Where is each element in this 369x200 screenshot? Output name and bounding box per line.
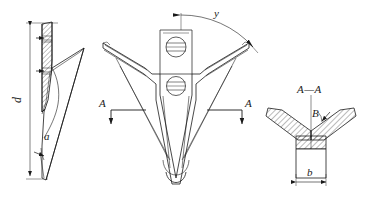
section-marker-left xyxy=(111,110,146,124)
section-left-wing xyxy=(266,108,311,140)
label-section-marker-left: A xyxy=(99,98,106,109)
label-angle-alpha: a xyxy=(44,131,50,142)
label-angle-gamma: y xyxy=(214,8,219,19)
label-angle-beta: B xyxy=(312,108,319,119)
plan-view-group xyxy=(103,13,258,184)
bolt-hole-lower xyxy=(167,77,186,96)
drawing-canvas xyxy=(0,0,369,200)
label-depth-d: d xyxy=(11,97,23,103)
center-mount-plate xyxy=(160,30,192,74)
sweep-body-outline xyxy=(103,43,249,184)
label-section-marker-right: A xyxy=(245,98,252,109)
bolt-hole-upper xyxy=(166,37,186,57)
section-marker-right xyxy=(207,110,242,124)
label-width-b: b xyxy=(307,167,313,178)
label-section-title: A—A xyxy=(297,84,322,95)
section-center-block xyxy=(296,136,326,149)
drawing-sheet: d a y A A A—A B b xyxy=(0,0,369,200)
side-view-group xyxy=(26,22,84,180)
